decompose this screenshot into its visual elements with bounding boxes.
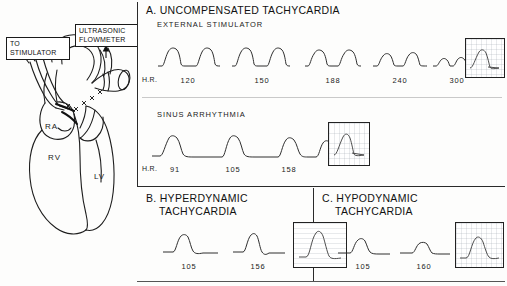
- panel-a-row2-hr-value-1: 105: [213, 165, 253, 174]
- panel-c-title-line2: TACHYCARDIA: [335, 205, 413, 217]
- panel-c-title-line1: C. HYPODYNAMIC: [322, 192, 418, 204]
- chamber-label-lv: LV: [94, 172, 105, 181]
- inset-box-a-row2: [328, 122, 370, 166]
- horizontal-divider-bottom: [137, 281, 505, 282]
- panel-b-hr-value-1: 156: [238, 262, 278, 271]
- panel-b-hr-value-0: 105: [169, 262, 209, 271]
- waveform-strip-a1-hr240: [373, 36, 427, 74]
- heart-diagram-panel: TO STIMULATOR ULTRASONIC FLOWMETER RA RV…: [0, 0, 137, 286]
- flowmeter-line1: ULTRASONIC: [79, 27, 134, 36]
- panel-a-row2-hr-value-0: 91: [155, 165, 195, 174]
- inset-box-c: [455, 222, 504, 268]
- waveform-strip-c-hr105: [338, 226, 390, 260]
- panel-a-row1-hr-tag: H.R.: [142, 76, 157, 83]
- waveform-strip-b-hr156: [233, 226, 285, 260]
- panel-a-row1-hr-value-3: 240: [380, 76, 420, 85]
- panel-b-title-line2: TACHYCARDIA: [159, 205, 237, 217]
- panel-a-row1-hr-value-2: 188: [313, 76, 353, 85]
- panel-a-row2-hr-value-2: 158: [269, 165, 309, 174]
- ultrasonic-flowmeter-label-box: ULTRASONIC FLOWMETER: [75, 24, 138, 47]
- waveform-strip-a1-hr150: [232, 36, 290, 74]
- panel-a-row1-subtitle: EXTERNAL STIMULATOR: [157, 20, 263, 29]
- chamber-label-ra: RA: [45, 122, 58, 131]
- panel-a-row-separator: [142, 97, 502, 98]
- chamber-label-rv: RV: [48, 153, 61, 162]
- waveform-strip-a1-hr188: [305, 36, 361, 74]
- to-stimulator-line1: TO: [10, 40, 66, 49]
- panel-a-row1-hr-value-0: 120: [168, 76, 208, 85]
- vertical-divider-main: [137, 2, 138, 186]
- waveform-strip-b-hr105: [163, 226, 218, 260]
- waveform-strip-a1-hr120: [158, 36, 220, 74]
- waveform-strip-a2-sinus: [152, 124, 352, 164]
- inset-box-a-row1: [465, 38, 505, 78]
- panel-a-row1-hr-value-1: 150: [242, 76, 282, 85]
- horizontal-divider-main: [137, 186, 505, 187]
- waveform-strip-c-hr160: [400, 226, 450, 260]
- panel-a-title: A. UNCOMPENSATED TACHYCARDIA: [146, 4, 340, 16]
- panel-b-title-line1: B. HYPERDYNAMIC: [146, 192, 248, 204]
- to-stimulator-line2: STIMULATOR: [10, 49, 66, 58]
- flowmeter-line2: FLOWMETER: [79, 36, 134, 45]
- panel-c-hr-value-0: 105: [343, 262, 383, 271]
- figure-canvas: TO STIMULATOR ULTRASONIC FLOWMETER RA RV…: [0, 0, 507, 286]
- to-stimulator-label-box: TO STIMULATOR: [6, 37, 70, 60]
- panel-c-hr-value-1: 160: [404, 262, 444, 271]
- panel-a-row2-subtitle: SINUS ARRHYTHMIA: [157, 110, 246, 119]
